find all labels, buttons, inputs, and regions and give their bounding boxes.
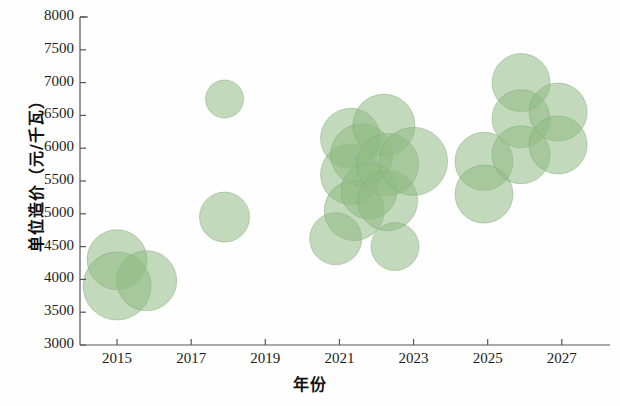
x-tick-label: 2017	[151, 350, 231, 367]
x-tick-label: 2023	[374, 350, 454, 367]
y-axis-title: 单位造价（元/千瓦）	[23, 42, 47, 302]
x-axis-title: 年份	[0, 371, 620, 395]
plot-area	[0, 0, 620, 406]
bubble-point	[380, 127, 448, 195]
bubble-point	[200, 192, 250, 242]
x-tick-label: 2025	[448, 350, 528, 367]
y-tick-label: 8000	[18, 7, 74, 24]
y-tick-label: 3500	[18, 302, 74, 319]
bubble-series	[83, 54, 587, 320]
bubble-point	[529, 116, 587, 174]
bubble-point	[206, 80, 244, 118]
bubble-point	[117, 251, 177, 311]
x-tick-label: 2027	[522, 350, 602, 367]
x-tick-label: 2021	[299, 350, 379, 367]
x-tick-label: 2015	[77, 350, 157, 367]
bubble-point	[371, 223, 419, 271]
bubble-chart: 3000350040004500500055006000650070007500…	[0, 0, 620, 406]
x-tick-label: 2019	[225, 350, 305, 367]
y-tick-label: 3000	[18, 335, 74, 352]
